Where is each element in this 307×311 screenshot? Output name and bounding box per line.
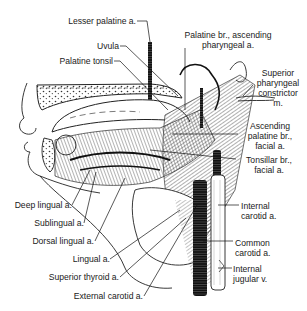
- label-internal-carotid-artery: Internal carotid a.: [241, 201, 301, 221]
- label-palatine-tonsil: Palatine tonsil: [50, 56, 113, 66]
- label-line: constrictor: [250, 88, 306, 98]
- label-ascending-palatine-branch: Ascending palatine br., facial a.: [240, 121, 300, 151]
- label-superior-thyroid-artery: Superior thyroid a.: [30, 272, 119, 282]
- label-line: facial a.: [240, 141, 300, 151]
- common-carotid-artery: [193, 180, 207, 296]
- label-common-carotid-artery: Common carotid a.: [235, 238, 295, 258]
- label-line: Ascending: [240, 121, 300, 131]
- label-line: pharyngeal: [250, 78, 306, 88]
- label-line: carotid a.: [235, 248, 295, 258]
- label-lesser-palatine-artery: Lesser palatine a.: [52, 16, 136, 26]
- label-lingual-artery: Lingual a.: [60, 254, 110, 264]
- label-line: jugular v.: [233, 274, 293, 284]
- label-internal-jugular-vein: Internal jugular v.: [233, 264, 293, 284]
- label-line: Internal: [233, 264, 293, 274]
- label-line: Superior: [250, 68, 306, 78]
- label-line: Palatine br., ascending: [178, 30, 278, 40]
- label-line: facial a.: [237, 165, 301, 175]
- label-sublingual-artery: Sublingual a.: [20, 218, 84, 228]
- label-line: m.: [250, 98, 306, 108]
- label-line: Common: [235, 238, 295, 248]
- anatomy-figure: Lesser palatine a. Uvula Palatine tonsil…: [0, 0, 307, 311]
- label-line: Internal: [241, 201, 301, 211]
- internal-jugular-vein: [211, 175, 225, 290]
- label-line: carotid a.: [241, 211, 301, 221]
- label-superior-pharyngeal-constrictor: Superior pharyngeal constrictor m.: [250, 68, 306, 108]
- label-line: Tonsillar br.,: [237, 155, 301, 165]
- label-external-carotid-artery: External carotid a.: [54, 291, 143, 301]
- label-line: pharyngeal a.: [178, 40, 278, 50]
- label-tonsillar-branch: Tonsillar br., facial a.: [237, 155, 301, 175]
- label-palatine-branch-ascending-pharyngeal: Palatine br., ascending pharyngeal a.: [178, 30, 278, 50]
- label-deep-lingual-artery: Deep lingual a.: [4, 200, 72, 210]
- label-uvula: Uvula: [80, 41, 119, 51]
- label-dorsal-lingual-artery: Dorsal lingual a.: [14, 236, 94, 246]
- label-line: palatine br.,: [240, 131, 300, 141]
- hard-palate: [37, 84, 182, 110]
